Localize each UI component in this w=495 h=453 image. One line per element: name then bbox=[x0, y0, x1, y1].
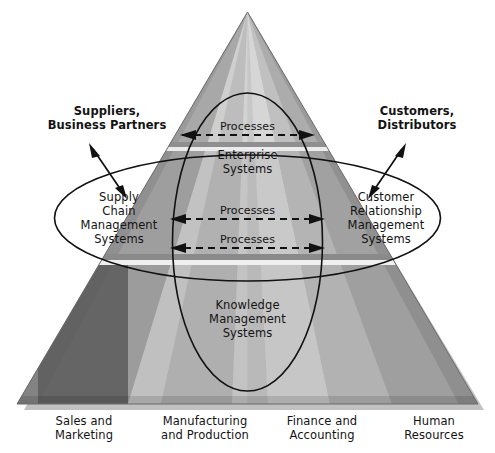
label-customers-line2: Distributors bbox=[352, 118, 482, 132]
label-area1-line2: Marketing bbox=[24, 428, 144, 442]
label-processes-lower: Processes bbox=[200, 233, 295, 246]
label-customer-relationship-management-systems: Customer Relationship Management Systems bbox=[325, 190, 447, 246]
label-crm-line1: Customer bbox=[325, 190, 447, 204]
diagram-canvas: Suppliers, Business Partners Customers, … bbox=[0, 0, 495, 453]
label-scm-line1: Supply bbox=[63, 190, 175, 204]
label-functional-area-manufacturing-production: Manufacturing and Production bbox=[140, 414, 270, 442]
label-area4-line1: Human bbox=[384, 414, 484, 428]
label-kms-line2: Management bbox=[195, 312, 300, 326]
label-enterprise-systems: Enterprise Systems bbox=[200, 148, 295, 176]
label-functional-area-sales-marketing: Sales and Marketing bbox=[24, 414, 144, 442]
label-crm-line3: Management bbox=[325, 218, 447, 232]
label-functional-area-human-resources: Human Resources bbox=[384, 414, 484, 442]
label-suppliers-business-partners: Suppliers, Business Partners bbox=[32, 104, 182, 132]
label-processes-middle: Processes bbox=[200, 204, 295, 217]
label-knowledge-management-systems: Knowledge Management Systems bbox=[195, 298, 300, 340]
label-suppliers-line2: Business Partners bbox=[32, 118, 182, 132]
label-kms-line3: Systems bbox=[195, 326, 300, 340]
label-processes-top: Processes bbox=[200, 120, 295, 133]
label-area2-line1: Manufacturing bbox=[140, 414, 270, 428]
label-crm-line2: Relationship bbox=[325, 204, 447, 218]
label-kms-line1: Knowledge bbox=[195, 298, 300, 312]
label-scm-line2: Chain bbox=[63, 204, 175, 218]
label-scm-line4: Systems bbox=[63, 232, 175, 246]
label-functional-area-finance-accounting: Finance and Accounting bbox=[262, 414, 382, 442]
label-customers-line1: Customers, bbox=[352, 104, 482, 118]
label-area3-line2: Accounting bbox=[262, 428, 382, 442]
label-supply-chain-management-systems: Supply Chain Management Systems bbox=[63, 190, 175, 246]
label-customers-distributors: Customers, Distributors bbox=[352, 104, 482, 132]
label-suppliers-line1: Suppliers, bbox=[32, 104, 182, 118]
label-enterprise-line2: Systems bbox=[200, 162, 295, 176]
label-area4-line2: Resources bbox=[384, 428, 484, 442]
label-area2-line2: and Production bbox=[140, 428, 270, 442]
label-area3-line1: Finance and bbox=[262, 414, 382, 428]
label-scm-line3: Management bbox=[63, 218, 175, 232]
label-area1-line1: Sales and bbox=[24, 414, 144, 428]
label-enterprise-line1: Enterprise bbox=[200, 148, 295, 162]
label-crm-line4: Systems bbox=[325, 232, 447, 246]
